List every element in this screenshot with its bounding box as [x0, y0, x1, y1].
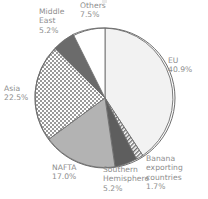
pie-label-nafta-name: NAFTA — [52, 163, 77, 172]
pie-label-asia-percent: 22.5% — [4, 93, 28, 102]
pie-label-banana-exporting-countries: Banana exporting countries 1.7% — [146, 154, 183, 191]
pie-label-middle-east: Middle East 5.2% — [39, 7, 64, 35]
pie-label-nafta: NAFTA 17.0% — [52, 163, 77, 182]
pie-label-banana-line2: exporting — [146, 163, 183, 172]
pie-label-southern-hemisphere-line1: Southern — [103, 165, 149, 174]
pie-label-banana-line3: countries — [146, 173, 183, 182]
pie-label-eu: EU 40.9% — [168, 56, 192, 75]
pie-chart: Others 7.5% Middle East 5.2% Asia 22.5% … — [0, 0, 208, 199]
pie-label-middle-east-line2: East — [39, 16, 64, 25]
pie-label-southern-hemisphere-percent: 5.2% — [103, 184, 149, 193]
pie-label-banana-percent: 1.7% — [146, 182, 183, 191]
pie-label-others-name: Others — [80, 1, 106, 10]
pie-label-southern-hemisphere: Southern Hemisphere 5.2% — [103, 165, 149, 193]
pie-label-others: Others 7.5% — [80, 1, 106, 20]
pie-label-nafta-percent: 17.0% — [52, 172, 77, 181]
pie-label-asia: Asia 22.5% — [4, 84, 28, 103]
pie-label-eu-percent: 40.9% — [168, 65, 192, 74]
pie-label-eu-name: EU — [168, 56, 192, 65]
pie-label-middle-east-line1: Middle — [39, 7, 64, 16]
pie-label-others-percent: 7.5% — [80, 10, 106, 19]
pie-label-asia-name: Asia — [4, 84, 28, 93]
pie-label-southern-hemisphere-line2: Hemisphere — [103, 174, 149, 183]
pie-label-middle-east-percent: 5.2% — [39, 26, 64, 35]
pie-label-banana-line1: Banana — [146, 154, 183, 163]
